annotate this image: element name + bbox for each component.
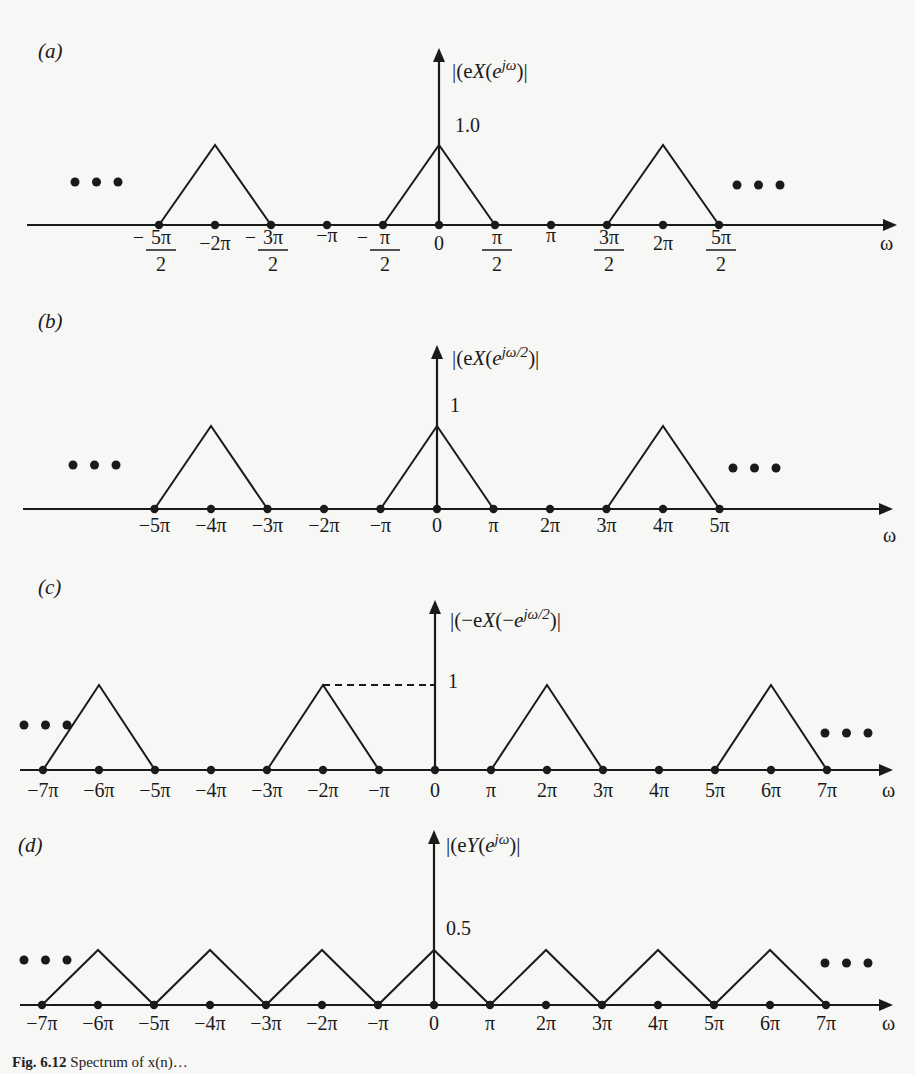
- tick-label-denominator: 2: [268, 253, 278, 275]
- tick-label: 6π: [761, 779, 781, 801]
- y-axis-label: |(eY(ejω)|: [446, 831, 521, 857]
- y-label-post: )|: [509, 833, 520, 857]
- tick-label: 5π: [704, 1012, 724, 1034]
- peak-value-label: 1: [448, 670, 458, 692]
- y-label-var: X: [472, 346, 487, 370]
- y-label-sup: jω/2: [521, 606, 550, 622]
- tick-dot: [822, 1001, 830, 1009]
- tick-label: 2π: [536, 1012, 556, 1034]
- tick-dot: [318, 1001, 326, 1009]
- panel-b: (b)|(eX(ejω/2)|1−5π−4π−3π−2π−π0π2π3π4π5π…: [23, 309, 896, 546]
- y-label-var: X: [472, 59, 487, 83]
- tick-dot: [38, 1001, 46, 1009]
- tick-dot: [654, 1001, 662, 1009]
- y-label-sup: jω: [500, 57, 517, 73]
- tick-dot: [710, 1001, 718, 1009]
- y-axis-label: |(eX(ejω)|: [452, 57, 528, 83]
- tick-label: 5π: [709, 514, 729, 536]
- panel-label: (a): [38, 39, 63, 63]
- tick-dot: [263, 505, 271, 513]
- tick-label: π: [546, 224, 556, 246]
- continuation-dot-left: [41, 721, 50, 730]
- tick-dot: [715, 505, 723, 513]
- continuation-dot-left: [63, 956, 72, 965]
- caption-text: Spectrum of x(n)…: [70, 1054, 187, 1070]
- peak-value-label: 1: [450, 394, 460, 416]
- tick-label: −2π: [307, 779, 338, 801]
- tick-dot: [375, 766, 383, 774]
- y-label-pre: |(e: [452, 59, 473, 83]
- tick-label: −5π: [139, 779, 170, 801]
- tick-label-denominator: 2: [716, 253, 726, 275]
- y-axis-label: |(eX(ejω/2)|: [452, 344, 539, 370]
- y-label-paren: (−: [495, 608, 514, 632]
- tick-label: 4π: [653, 514, 673, 536]
- spectrum-triangle: [155, 426, 268, 509]
- tick-dot: [767, 766, 775, 774]
- tick-dot: [659, 221, 667, 229]
- tick-label: 0: [429, 1012, 439, 1034]
- tick-label: π: [485, 1012, 495, 1034]
- tick-label: −2π: [306, 1012, 337, 1034]
- panel-label: (d): [18, 833, 43, 857]
- tick-dot: [319, 766, 327, 774]
- tick-label-sign: −: [245, 226, 256, 248]
- tick-label: −2π: [199, 232, 230, 254]
- tick-dot: [489, 505, 497, 513]
- x-axis-label: ω: [880, 232, 893, 254]
- x-axis-label: ω: [883, 524, 896, 546]
- figure-caption: Fig. 6.12 Spectrum of x(n)…: [12, 1054, 188, 1071]
- tick-label: 7π: [817, 779, 837, 801]
- continuation-dot-right: [842, 729, 851, 738]
- spectrum-triangle: [159, 145, 271, 225]
- tick-dot: [150, 505, 158, 513]
- tick-label-sign: −: [133, 226, 144, 248]
- y-axis-arrow-icon: [433, 48, 445, 62]
- spectrum-triangle: [715, 685, 827, 770]
- tick-label: 0: [430, 779, 440, 801]
- tick-dot: [655, 766, 663, 774]
- panel-label: (c): [38, 575, 61, 599]
- tick-dot: [151, 766, 159, 774]
- tick-dot: [598, 1001, 606, 1009]
- tick-label-numerator: 5π: [151, 226, 171, 248]
- continuation-dot-right: [864, 959, 873, 968]
- tick-dot: [542, 1001, 550, 1009]
- tick-label: 6π: [760, 1012, 780, 1034]
- tick-dot: [207, 766, 215, 774]
- tick-label: −π: [367, 1012, 388, 1034]
- tick-label: −6π: [82, 1012, 113, 1034]
- tick-label: −3π: [251, 779, 282, 801]
- tick-dot: [376, 505, 384, 513]
- tick-dot: [659, 505, 667, 513]
- y-axis-arrow-icon: [429, 600, 441, 614]
- continuation-dot-right: [776, 181, 785, 190]
- tick-dot: [320, 505, 328, 513]
- y-label-sup: jω/2: [500, 344, 529, 360]
- tick-dot: [94, 1001, 102, 1009]
- y-label-pre: |(e: [452, 346, 473, 370]
- continuation-dot-right: [772, 464, 781, 473]
- tick-label: 3π: [596, 514, 616, 536]
- tick-dot: [823, 766, 831, 774]
- tick-dot: [602, 505, 610, 513]
- tick-label: π: [488, 514, 498, 536]
- y-axis-arrow-icon: [428, 830, 440, 844]
- tick-label: 7π: [816, 1012, 836, 1034]
- x-axis-label: ω: [882, 779, 895, 801]
- tick-dot: [262, 1001, 270, 1009]
- y-label-e: e: [485, 833, 494, 857]
- tick-dot: [374, 1001, 382, 1009]
- y-label-pre: |(e: [446, 833, 467, 857]
- tick-dot: [95, 766, 103, 774]
- spectrum-triangle: [267, 685, 379, 770]
- continuation-dot-right: [821, 729, 830, 738]
- tick-dot: [150, 1001, 158, 1009]
- tick-label: −6π: [83, 779, 114, 801]
- tick-label-denominator: 2: [380, 253, 390, 275]
- spectrum-triangle: [491, 685, 603, 770]
- y-label-e: e: [492, 59, 501, 83]
- tick-label: 4π: [649, 779, 669, 801]
- tick-label-numerator: 5π: [711, 226, 731, 248]
- continuation-dot-right: [864, 729, 873, 738]
